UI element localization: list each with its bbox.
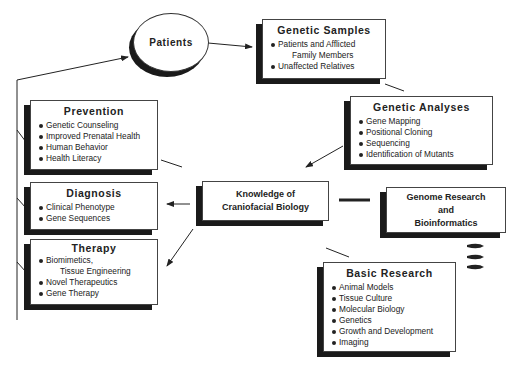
genome-line1: Genome Research — [387, 191, 505, 204]
list-item: Imaging — [332, 337, 455, 348]
list-item: Clinical Phenotype — [39, 202, 157, 213]
basic-research-title: Basic Research — [324, 267, 455, 279]
genome-line2: and — [387, 204, 505, 217]
list-item: Sequencing — [359, 138, 492, 149]
list-item: Human Behavior — [39, 142, 157, 153]
basic-research-box: Basic Research Animal Models Tissue Cult… — [323, 262, 456, 352]
list-item: Molecular Biology — [332, 304, 455, 315]
list-item: Health Literacy — [39, 153, 157, 164]
prevention-box: Prevention Genetic Counseling Improved P… — [30, 100, 158, 170]
diagnosis-box: Diagnosis Clinical Phenotype Gene Sequen… — [30, 182, 158, 230]
therapy-title: Therapy — [31, 242, 157, 254]
patients-node: Patients — [133, 13, 209, 72]
diagnosis-title: Diagnosis — [31, 187, 157, 199]
knowledge-line1: Knowledge of — [203, 188, 328, 201]
list-item: Positional Cloning — [359, 127, 492, 138]
genetic-samples-box: Genetic Samples Patients and AfflictedFa… — [262, 19, 386, 79]
list-item: Gene Sequences — [39, 213, 157, 224]
list-item: Novel Therapeutics — [39, 277, 157, 288]
list-item: Unaffected Relatives — [271, 61, 385, 72]
list-item: Gene Therapy — [39, 288, 157, 299]
genome-research-box: Genome Research and Bioinformatics — [386, 187, 506, 233]
list-item: Tissue Culture — [332, 293, 455, 304]
patients-label: Patients — [149, 37, 193, 48]
prevention-title: Prevention — [31, 105, 157, 117]
genetic-samples-title: Genetic Samples — [263, 24, 385, 36]
knowledge-line2: Craniofacial Biology — [203, 201, 328, 214]
list-item: Genetic Counseling — [39, 120, 157, 131]
list-item: Identification of Mutants — [359, 149, 492, 160]
list-item: Improved Prenatal Health — [39, 131, 157, 142]
genetic-analyses-box: Genetic Analyses Gene Mapping Positional… — [350, 96, 493, 165]
genome-line3: Bioinformatics — [387, 217, 505, 230]
list-item: Patients and AfflictedFamily Members — [271, 39, 385, 61]
genetic-analyses-title: Genetic Analyses — [351, 101, 492, 113]
list-item: Animal Models — [332, 282, 455, 293]
list-item: Biomimetics,Tissue Engineering — [39, 255, 157, 277]
list-item: Gene Mapping — [359, 116, 492, 127]
knowledge-box: Knowledge of Craniofacial Biology — [202, 181, 329, 221]
list-item: Genetics — [332, 315, 455, 326]
list-item: Growth and Development — [332, 326, 455, 337]
therapy-box: Therapy Biomimetics,Tissue Engineering N… — [30, 239, 158, 305]
